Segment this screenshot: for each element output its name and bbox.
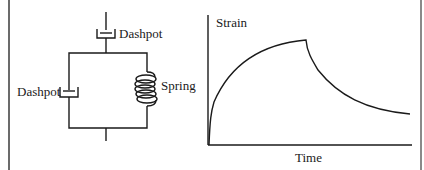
parallel-frame-bottom — [69, 97, 147, 128]
spring-icon — [135, 72, 157, 106]
spring-label: Spring — [161, 79, 196, 92]
left-dashpot-label: Dashpot — [17, 85, 60, 98]
diagram-canvas — [0, 0, 424, 170]
x-axis-label: Time — [295, 151, 322, 164]
top-dashpot-icon — [97, 29, 115, 38]
y-axis-label: Strain — [216, 16, 247, 29]
strain-curve — [209, 40, 410, 145]
top-dashpot-label: Dashpot — [119, 27, 162, 40]
strain-time-graph — [208, 15, 412, 145]
